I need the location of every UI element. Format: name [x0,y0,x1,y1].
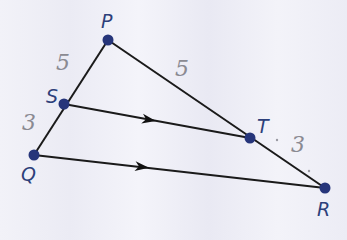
label-S: S [46,85,58,107]
handwritten-PS: 5 [56,50,70,75]
handwritten-TR: 3 [291,132,305,157]
point-T [245,133,256,144]
segment-QR [34,155,325,188]
point-Q [29,150,40,161]
triangle-diagram: P S Q T R 5 3 5 3 [0,0,347,227]
pencil-dot [276,139,278,141]
label-R: R [317,198,330,220]
point-P [103,35,114,46]
segment-ST [64,104,250,138]
label-T: T [257,115,270,137]
point-S [59,99,70,110]
label-P: P [101,10,113,32]
handwritten-SQ: 3 [22,110,36,135]
handwritten-PT: 5 [175,56,189,81]
point-R [320,183,331,194]
label-Q: Q [21,163,36,185]
pencil-dot [308,170,310,172]
